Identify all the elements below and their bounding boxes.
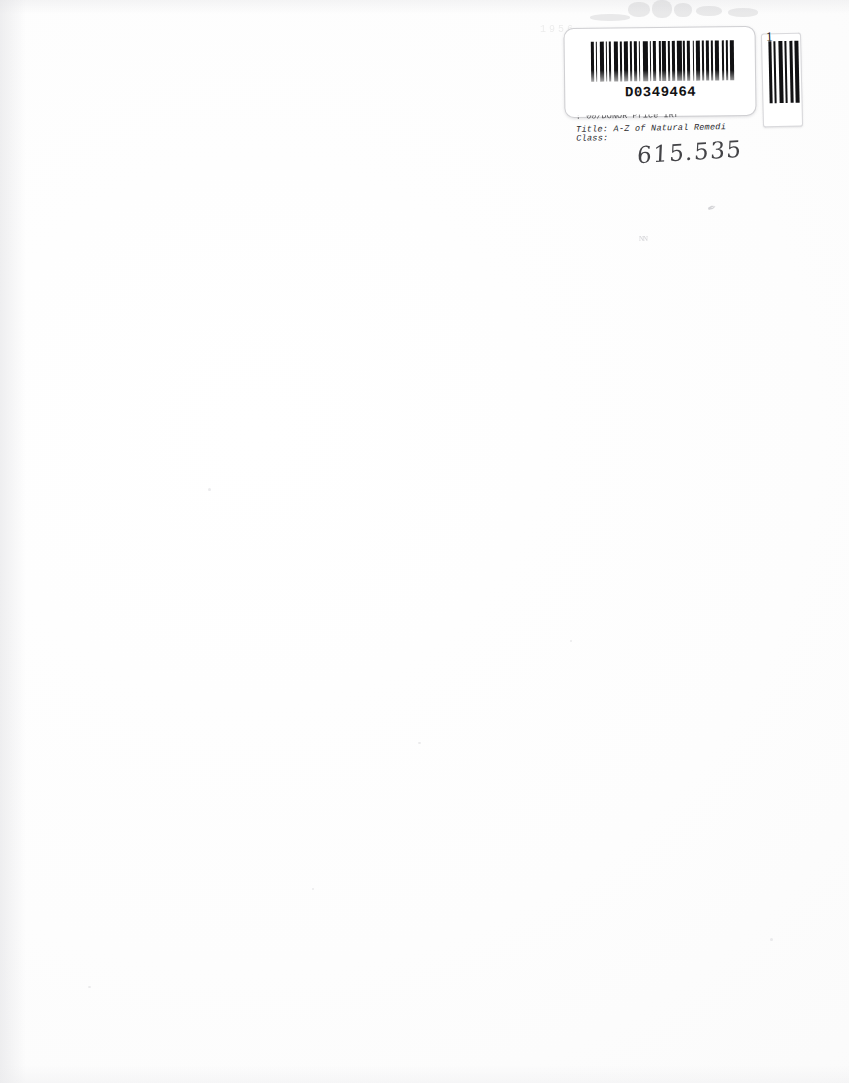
scanned-page: 1956 D0349464 (0, 0, 849, 1083)
handwritten-class-mark: 615.535 (637, 136, 744, 169)
dust-speck (770, 938, 773, 941)
scan-artifact-mark-2: ɴɴ (639, 232, 647, 243)
dust-speck (88, 986, 91, 988)
copy-number-text: 1 (766, 29, 773, 45)
dust-speck (208, 488, 211, 491)
dust-speck (570, 640, 572, 642)
barcode-number-text: D0349464 (625, 84, 696, 101)
page-edge-shadow-left (0, 0, 26, 1083)
scan-artifact-mark-1: ✒ (705, 201, 718, 216)
page-edge-shadow-bottom (0, 1065, 849, 1083)
dust-speck (418, 742, 421, 744)
page-edge-shadow-top (0, 0, 849, 14)
barcode-copy (768, 41, 799, 104)
label-class-text: Class: (576, 133, 608, 144)
barcode-main (591, 40, 734, 81)
dust-speck (312, 888, 314, 890)
